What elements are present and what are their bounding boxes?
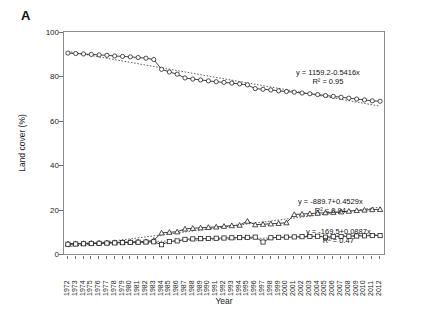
x-tick-mark — [239, 256, 240, 259]
x-tick-mark — [200, 256, 201, 259]
data-point — [245, 219, 250, 224]
data-point — [253, 235, 257, 239]
panel-label: A — [21, 8, 31, 23]
data-point — [120, 54, 124, 58]
x-tick-label: 1973 — [71, 280, 78, 296]
x-tick-mark — [278, 256, 279, 259]
data-point — [222, 80, 226, 84]
data-point — [292, 235, 296, 239]
data-point — [66, 242, 70, 246]
data-point — [159, 243, 163, 247]
x-tick-mark — [262, 256, 263, 259]
data-point — [81, 52, 85, 56]
x-tick-mark — [137, 256, 138, 259]
x-tick-mark — [145, 256, 146, 259]
x-tick-label: 1991 — [211, 280, 218, 296]
data-point — [261, 240, 265, 244]
x-axis-ticks: 1972197319741975197619771978197919801981… — [63, 256, 385, 296]
x-tick-label: 2009 — [352, 280, 359, 296]
ann-series3-r2: R² = 0.47 — [306, 236, 371, 245]
data-point — [97, 241, 101, 245]
data-point — [152, 57, 156, 61]
x-tick-mark — [153, 256, 154, 259]
x-tick-mark — [332, 256, 333, 259]
x-tick-mark — [192, 256, 193, 259]
data-point — [222, 236, 226, 240]
data-point — [245, 83, 249, 87]
x-axis-title: Year — [63, 296, 385, 306]
data-point — [152, 240, 156, 244]
x-tick-mark — [309, 256, 310, 259]
x-tick-label: 1990 — [203, 280, 210, 296]
data-point — [183, 76, 187, 80]
y-tick-label: 100 — [46, 28, 59, 37]
x-tick-mark — [98, 256, 99, 259]
x-tick-mark — [293, 256, 294, 259]
data-point — [191, 77, 195, 81]
data-point — [269, 236, 273, 240]
x-tick-label: 1989 — [196, 280, 203, 296]
x-tick-label: 1986 — [172, 280, 179, 296]
data-point — [89, 52, 93, 56]
chart-figure: A Land cover (%) 020406080100 1972197319… — [0, 0, 435, 316]
data-point — [159, 67, 163, 71]
data-point — [362, 98, 366, 102]
data-point — [136, 240, 140, 244]
x-tick-label: 2003 — [305, 280, 312, 296]
y-axis-ticks: 020406080100 — [28, 31, 59, 255]
x-tick-mark — [324, 256, 325, 259]
data-point — [206, 236, 210, 240]
x-tick-mark — [348, 256, 349, 259]
x-tick-label: 1987 — [180, 280, 187, 296]
data-point — [89, 241, 93, 245]
ann-series3-equation: y = -169.5+0.0887x — [306, 227, 371, 236]
data-point — [105, 53, 109, 57]
x-tick-label: 1999 — [274, 280, 281, 296]
data-point — [277, 235, 281, 239]
data-point — [284, 235, 288, 239]
ann-series2: y = -889.7+0.4529xR² = 0.94 — [298, 197, 363, 216]
x-tick-label: 2006 — [328, 280, 335, 296]
data-point — [261, 87, 265, 91]
ann-series2-r2: R² = 0.94 — [298, 206, 363, 215]
x-tick-mark — [176, 256, 177, 259]
data-point — [316, 93, 320, 97]
x-tick-label: 1976 — [94, 280, 101, 296]
x-tick-mark — [379, 256, 380, 259]
x-tick-label: 2000 — [281, 280, 288, 296]
data-point — [355, 97, 359, 101]
y-tick-label: 60 — [50, 116, 59, 125]
data-point — [120, 241, 124, 245]
data-point — [74, 51, 78, 55]
data-point — [66, 51, 70, 55]
x-tick-mark — [270, 256, 271, 259]
x-tick-mark — [184, 256, 185, 259]
data-point — [347, 96, 351, 100]
data-point — [198, 237, 202, 241]
x-tick-label: 2007 — [336, 280, 343, 296]
x-tick-label: 1982 — [141, 280, 148, 296]
x-tick-label: 2002 — [297, 280, 304, 296]
x-tick-label: 1977 — [102, 280, 109, 296]
x-tick-mark — [254, 256, 255, 259]
data-point — [81, 242, 85, 246]
data-point — [370, 99, 374, 103]
x-tick-mark — [301, 256, 302, 259]
data-point — [167, 70, 171, 74]
y-tick-label: 40 — [50, 161, 59, 170]
x-tick-mark — [340, 256, 341, 259]
x-tick-label: 2005 — [320, 280, 327, 296]
x-tick-mark — [246, 256, 247, 259]
x-tick-label: 1984 — [157, 280, 164, 296]
x-tick-label: 1985 — [164, 280, 171, 296]
x-tick-label: 1988 — [188, 280, 195, 296]
x-tick-mark — [75, 256, 76, 259]
data-point — [308, 92, 312, 96]
data-point — [331, 94, 335, 98]
x-tick-mark — [223, 256, 224, 259]
x-tick-label: 1996 — [250, 280, 257, 296]
plot-area — [63, 31, 385, 255]
x-tick-label: 1997 — [258, 280, 265, 296]
x-tick-mark — [90, 256, 91, 259]
ann-series2-equation: y = -889.7+0.4529x — [298, 197, 363, 206]
